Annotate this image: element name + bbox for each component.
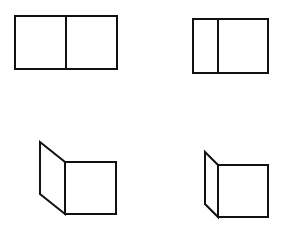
folding-panels-diagram [0,0,284,226]
outer-rectangle [193,19,268,73]
figure-folded-narrow-left-panel [205,152,268,217]
square-right-panel [218,165,268,217]
figure-flat-narrow-left-panel [193,19,268,73]
figure-folded-wide-left-panel [40,142,116,214]
figure-flat-equal-panels [15,16,117,69]
diagram-canvas [0,0,284,226]
angled-left-panel [205,152,218,217]
square-right-panel [65,162,116,214]
angled-left-panel [40,142,65,214]
